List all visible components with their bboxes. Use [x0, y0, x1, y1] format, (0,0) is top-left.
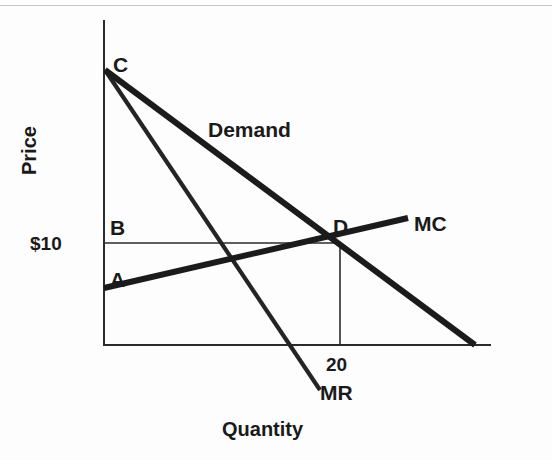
point-label-a: A [110, 268, 125, 291]
price-quantity-chart: C B A D Demand MC MR $10 20 Price Quanti… [0, 0, 552, 460]
x-axis-tick-label: 20 [326, 354, 347, 375]
x-axis-title: Quantity [222, 418, 304, 440]
y-axis-tick-label: $10 [30, 233, 62, 254]
demand-curve-label: Demand [208, 118, 291, 141]
point-label-c: C [113, 53, 128, 76]
mr-curve-label: MR [320, 381, 353, 404]
demand-curve [105, 70, 475, 345]
y-axis-title: Price [18, 126, 40, 175]
mc-curve-label: MC [414, 212, 447, 235]
axes-group [104, 21, 490, 345]
point-label-b: B [110, 216, 125, 239]
figure-root: C B A D Demand MC MR $10 20 Price Quanti… [0, 0, 552, 460]
point-label-d: D [333, 215, 348, 238]
marginal-cost-curve [104, 218, 408, 288]
